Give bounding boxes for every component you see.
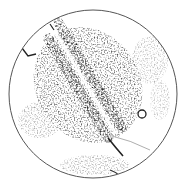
specimen-field xyxy=(0,0,187,187)
micrograph xyxy=(0,0,187,187)
micrograph-svg xyxy=(0,0,187,187)
